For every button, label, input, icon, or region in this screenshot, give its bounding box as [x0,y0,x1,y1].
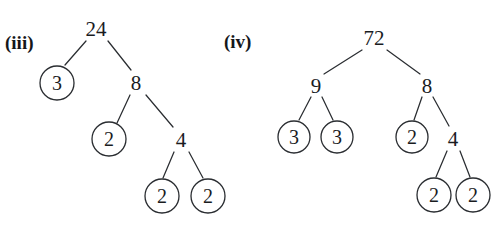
tree-edge [108,41,131,70]
composite-factor-node: 4 [176,130,187,151]
tree-edge [322,97,333,120]
composite-factor-node: 4 [448,129,459,150]
prime-factor-node: 2 [104,129,114,149]
tree-edge [324,50,362,74]
tree-edge [146,95,173,127]
tree-edge [436,151,447,177]
composite-factor-node: 9 [311,76,322,97]
prime-factor-node: 2 [203,186,213,206]
prime-factor-node: 2 [429,185,439,205]
prime-factor-node: 2 [407,127,417,147]
prime-factor-node: 2 [468,185,478,205]
tree-part-label: (iii) [5,33,34,52]
prime-factor-node: 2 [157,186,167,206]
prime-factor-node: 3 [289,127,299,147]
tree-edge [117,95,130,123]
composite-factor-node: 8 [422,76,433,97]
tree-edge [299,97,311,120]
tree-edge [163,152,174,178]
tree-part-label: (iv) [224,32,251,51]
composite-factor-node: 24 [86,19,107,40]
tree-edge [189,152,203,178]
factor-tree-figure: 24382422(iii)7298332422(iv) [0,0,492,231]
tree-edge [387,50,420,74]
tree-edge [460,151,470,177]
prime-factor-node: 3 [52,73,62,93]
tree-edge [433,97,449,126]
tree-edge [414,97,422,120]
tree-edge [65,41,86,65]
composite-factor-node: 8 [131,73,142,94]
composite-factor-node: 72 [364,28,385,49]
prime-factor-node: 3 [332,127,342,147]
